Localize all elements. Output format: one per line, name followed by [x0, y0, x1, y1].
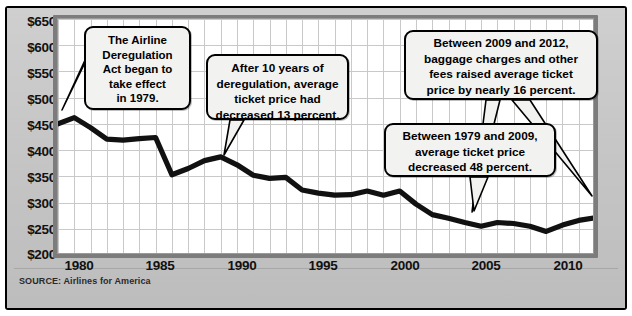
y-tick-650: $650 [27, 14, 56, 29]
callout-1-line-4: take effect [86, 77, 189, 92]
x-tick-1985: 1985 [145, 258, 174, 273]
y-tick-350: $350 [27, 170, 56, 185]
y-tick-250: $250 [27, 222, 56, 237]
callout-4-line-1: Between 1979 and 2009, [386, 129, 554, 145]
source-note: SOURCE: Airlines for America [19, 276, 151, 286]
callout-1-line-5: in 1979. [86, 91, 189, 106]
x-tick-2005: 2005 [471, 258, 500, 273]
callout-1-line-3: Act began to [86, 62, 189, 77]
callout-long-run-decline: Between 1979 and 2009, average ticket pr… [384, 123, 556, 177]
callout-1-line-1: The Airline [86, 33, 189, 48]
y-tick-300: $300 [27, 196, 56, 211]
x-tick-2010: 2010 [553, 258, 582, 273]
y-tick-200: $200 [27, 247, 56, 262]
callout-4-line-3: decreased 48 percent. [386, 160, 554, 176]
callout-deregulation-act: The Airline Deregulation Act began to ta… [84, 26, 191, 110]
x-tick-2000: 2000 [390, 258, 419, 273]
x-tick-1980: 1980 [64, 258, 93, 273]
callout-3-line-4: price by nearly 16 percent. [406, 83, 596, 99]
chart-screenshot: $650 $600 $550 $500 $450 $400 $350 $300 … [0, 0, 632, 316]
y-axis-labels: $650 $600 $550 $500 $450 $400 $350 $300 … [8, 18, 56, 254]
source-divider [14, 268, 618, 269]
y-tick-500: $500 [27, 92, 56, 107]
callout-1-line-2: Deregulation [86, 48, 189, 63]
y-tick-550: $550 [27, 66, 56, 81]
callout-baggage-fees: Between 2009 and 2012, baggage charges a… [404, 30, 598, 100]
callout-2-line-4: decreased 13 percent. [208, 108, 347, 124]
callout-2-line-2: deregulation, average [208, 77, 347, 93]
callout-4-line-2: average ticket price [386, 145, 554, 161]
callout-2-line-1: After 10 years of [208, 61, 347, 77]
y-tick-400: $400 [27, 144, 56, 159]
y-tick-450: $450 [27, 118, 56, 133]
y-tick-600: $600 [27, 40, 56, 55]
callout-3-line-1: Between 2009 and 2012, [406, 36, 596, 52]
callout-3-line-3: fees raised average ticket [406, 67, 596, 83]
callout-2-line-3: ticket price had [208, 92, 347, 108]
x-tick-1995: 1995 [308, 258, 337, 273]
x-tick-1990: 1990 [227, 258, 256, 273]
callout-ten-years-after: After 10 years of deregulation, average … [206, 54, 349, 120]
callout-3-line-2: baggage charges and other [406, 52, 596, 68]
